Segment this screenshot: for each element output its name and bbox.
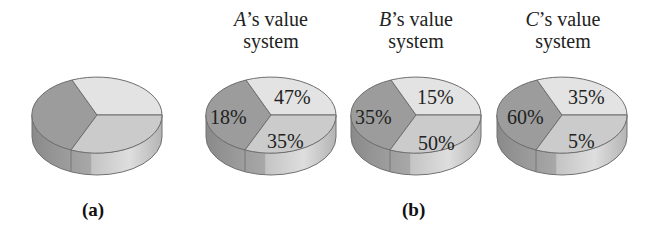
pie-B-label-left: 35% <box>355 106 392 128</box>
pie-A-title: A’s value system <box>201 8 341 52</box>
pie-C-label-top-right: 35% <box>568 86 605 108</box>
title-line2: system <box>535 30 591 52</box>
pie-B-label-bottom-right: 50% <box>418 132 455 154</box>
person-name: A <box>234 8 246 30</box>
pie-C-label-bottom-right: 5% <box>568 130 595 152</box>
caption-b: (b) <box>402 199 425 221</box>
pie-C-title: C’s value system <box>493 8 633 52</box>
caption-a: (a) <box>82 199 104 221</box>
pie-A-label-top-right: 47% <box>274 86 311 108</box>
title-line2: system <box>388 30 444 52</box>
title-line2: system <box>243 30 299 52</box>
person-name: C <box>526 8 539 30</box>
person-name: B <box>379 8 391 30</box>
pie-A-label-left: 18% <box>210 106 247 128</box>
pie-B-title: B’s value system <box>346 8 486 52</box>
pie-A-label-bottom-right: 35% <box>267 130 304 152</box>
title-rest: ’s value <box>391 8 453 30</box>
pie-C-label-left: 60% <box>507 106 544 128</box>
pie-B-label-top-right: 15% <box>417 86 454 108</box>
title-rest: ’s value <box>539 8 601 30</box>
title-rest: ’s value <box>246 8 308 30</box>
pie-a <box>32 77 162 175</box>
